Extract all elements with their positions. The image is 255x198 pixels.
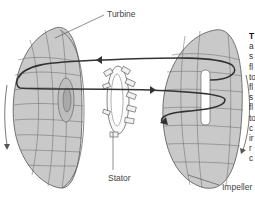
- caption-line: fl: [249, 102, 255, 112]
- side-caption-text: T a s fl to fl s fl to c ir r c: [249, 31, 255, 164]
- stator: [102, 66, 136, 137]
- caption-line: s: [249, 92, 255, 102]
- caption-line: fl: [249, 82, 255, 92]
- caption-line: to: [249, 72, 255, 82]
- caption-line: fl: [249, 62, 255, 72]
- stator-label: Stator: [108, 173, 131, 183]
- impeller-label: Impeller: [222, 182, 252, 192]
- turbine-shell: [13, 27, 84, 188]
- caption-line: r: [249, 143, 255, 153]
- caption-line: to: [249, 113, 255, 123]
- caption-line: T: [249, 31, 255, 41]
- caption-line: c: [249, 153, 255, 163]
- caption-line: c: [249, 123, 255, 133]
- caption-line: s: [249, 51, 255, 61]
- caption-line: ir: [249, 133, 255, 143]
- torque-converter-diagram: [0, 0, 255, 198]
- turbine-label: Turbine: [107, 9, 136, 19]
- turbine-leader: [55, 15, 104, 38]
- caption-line: a: [249, 41, 255, 51]
